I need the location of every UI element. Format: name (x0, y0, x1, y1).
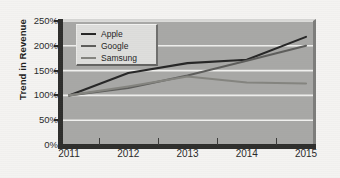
chart-legend: AppleGoogleSamsung (76, 24, 158, 66)
x-axis-tick (276, 138, 277, 145)
y-axis-tick (54, 20, 59, 22)
x-axis-tick-label: 2013 (165, 148, 211, 159)
x-axis-tick-label: 2012 (105, 148, 151, 159)
y-axis-tick (54, 70, 59, 72)
y-axis-tick-label: 200% (16, 40, 58, 51)
x-axis-tick (217, 138, 218, 145)
legend-label: Apple (101, 29, 123, 39)
y-axis-tick-label: 50% (16, 114, 58, 125)
legend-item: Apple (81, 28, 152, 39)
x-axis-tick-label: 2015 (283, 148, 329, 159)
y-axis-spine (58, 19, 63, 149)
x-axis-tick (99, 138, 100, 145)
x-axis-tick-label: 2011 (46, 148, 92, 159)
x-axis-tick-labels: 20112012201320142015 (62, 148, 314, 168)
y-axis-tick (54, 94, 59, 96)
y-axis-tick-label: 150% (16, 65, 58, 76)
y-axis-tick-label: 100% (16, 89, 58, 100)
legend-item: Samsung (81, 52, 152, 63)
legend-line-swatch (81, 45, 96, 47)
x-axis-tick (158, 138, 159, 145)
x-axis-tick-label: 2014 (224, 148, 270, 159)
y-axis-tick-label: 250% (16, 15, 58, 26)
data-line-samsung (69, 77, 306, 96)
legend-label: Google (101, 41, 128, 51)
revenue-trend-chart: Trend in Revenue 250%200%150%100%50%0% A… (0, 0, 340, 178)
legend-item: Google (81, 40, 152, 51)
legend-line-swatch (81, 33, 96, 35)
y-axis-tick (54, 119, 59, 121)
y-axis-tick (54, 45, 59, 47)
legend-label: Samsung (101, 53, 137, 63)
legend-line-swatch (81, 57, 96, 59)
